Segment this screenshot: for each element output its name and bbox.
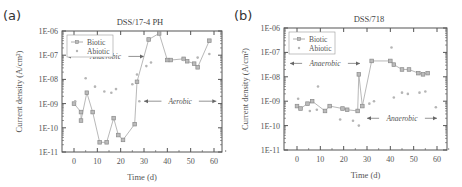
data-point — [393, 96, 396, 99]
data-point — [426, 71, 430, 75]
data-point — [208, 53, 211, 56]
data-point — [345, 108, 349, 112]
data-point — [147, 38, 151, 42]
data-point — [357, 73, 361, 77]
data-point — [435, 106, 438, 109]
chart-title: DSS/17-4 PH — [117, 17, 164, 27]
data-point — [192, 62, 196, 66]
data-point — [196, 56, 199, 59]
data-point — [316, 108, 319, 111]
data-point — [135, 80, 139, 84]
data-point — [295, 104, 299, 108]
x-tick-label: 30 — [363, 155, 371, 164]
y-tick-label: 1E-09 — [260, 97, 280, 106]
data-point — [390, 46, 393, 49]
data-point — [79, 119, 83, 123]
data-point — [185, 59, 189, 63]
data-point — [74, 100, 77, 103]
x-tick-label: 30 — [140, 157, 148, 166]
data-point — [112, 116, 116, 120]
data-point — [166, 59, 169, 62]
data-point — [138, 100, 141, 103]
x-tick-label: 10 — [316, 155, 324, 164]
chart-panel-a: (a)DSS/17-4 PH1E-111E-101E-091E-081E-071… — [3, 8, 226, 182]
x-axis-label: Time (d) — [127, 172, 157, 182]
x-tick-label: 10 — [93, 157, 101, 166]
y-tick-label: 1E-08 — [38, 75, 58, 84]
x-tick-label: 50 — [187, 157, 195, 166]
data-point — [145, 65, 148, 68]
data-point — [358, 124, 361, 127]
figure: (a)DSS/17-4 PH1E-111E-101E-091E-081E-071… — [0, 0, 462, 187]
x-tick-label: 20 — [117, 157, 125, 166]
data-point — [84, 77, 87, 80]
data-point — [121, 138, 125, 142]
data-point — [169, 58, 173, 62]
x-tick-label: 40 — [163, 157, 171, 166]
y-tick-label: 1E-10 — [260, 122, 280, 131]
data-point — [309, 110, 312, 113]
chart-title: DSS/718 — [354, 14, 385, 24]
data-point — [310, 99, 314, 103]
x-axis-label: Time (d) — [351, 170, 381, 180]
y-tick-label: 1E-08 — [260, 73, 280, 82]
data-point — [117, 133, 121, 137]
svg-text:Anaerobic: Anaerobic — [386, 114, 419, 123]
x-tick-label: 0 — [72, 157, 76, 166]
data-point — [94, 85, 97, 88]
region-annotation: Anaerobic — [367, 114, 437, 123]
data-point — [150, 61, 153, 64]
y-tick-label: 1E-06 — [260, 24, 280, 33]
y-tick-label: 1E-06 — [38, 27, 58, 36]
data-point — [85, 91, 89, 95]
data-point — [182, 59, 185, 62]
legend-biotic: Biotic — [309, 35, 328, 44]
x-tick-label: 0 — [295, 155, 299, 164]
data-point — [328, 104, 332, 108]
data-point — [392, 63, 396, 67]
y-axis-label: Current density (A/cm²) — [240, 48, 250, 130]
data-point — [421, 73, 425, 77]
data-point — [407, 93, 410, 96]
data-point — [361, 104, 365, 108]
y-tick-label: 1E-10 — [38, 124, 58, 133]
data-point — [115, 88, 118, 91]
data-point — [424, 90, 427, 93]
data-point — [418, 91, 421, 94]
data-point — [339, 118, 342, 121]
region-annotation: Anaerobic — [290, 59, 360, 68]
data-point — [407, 68, 411, 72]
chart-panel-b: (b)DSS/7181E-111E-101E-091E-081E-071E-06… — [234, 8, 449, 180]
y-tick-label: 1E-09 — [38, 100, 58, 109]
x-tick-label: 40 — [386, 155, 394, 164]
data-point — [110, 91, 113, 94]
legend: BioticAbiotic — [289, 32, 335, 54]
data-point — [299, 107, 303, 111]
panel-label: (b) — [234, 8, 252, 23]
data-point — [103, 90, 106, 93]
data-point — [401, 91, 404, 94]
data-point — [79, 110, 83, 114]
panel-label: (a) — [3, 8, 21, 23]
data-point — [98, 141, 102, 145]
x-tick-label: 20 — [340, 155, 348, 164]
legend-abiotic: Abiotic — [87, 47, 110, 56]
data-point — [131, 83, 134, 86]
region-annotation: Aerobic — [144, 97, 216, 106]
data-point — [157, 32, 161, 36]
legend-biotic: Biotic — [87, 38, 106, 47]
x-tick-label: 60 — [433, 155, 441, 164]
data-point — [352, 119, 355, 122]
data-point — [389, 59, 393, 63]
y-tick-label: 1E-11 — [261, 146, 280, 155]
data-point — [341, 107, 345, 111]
legend-abiotic: Abiotic — [309, 44, 332, 53]
svg-text:Aerobic: Aerobic — [167, 97, 192, 106]
data-point — [373, 100, 376, 103]
x-tick-label: 60 — [210, 157, 218, 166]
data-point — [133, 122, 137, 126]
data-point — [323, 109, 327, 113]
y-tick-label: 1E-07 — [38, 51, 58, 60]
data-point — [368, 102, 371, 105]
data-point — [317, 85, 320, 88]
